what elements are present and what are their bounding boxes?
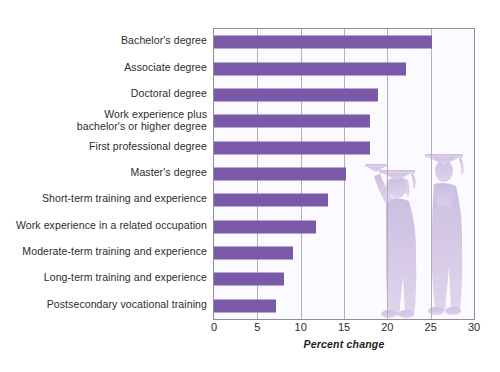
- category-label: Doctoral degree: [2, 88, 207, 100]
- category-label: Long-term training and experience: [2, 273, 207, 285]
- plot-area: [213, 28, 475, 320]
- bar-chart: Bachelor's degreeAssociate degreeDoctora…: [0, 0, 500, 372]
- category-label: Short-term training and experience: [2, 194, 207, 206]
- category-label: Postsecondary vocational training: [2, 299, 207, 311]
- category-label: Bachelor's degree: [2, 35, 207, 47]
- x-tick-15: 15: [338, 321, 350, 333]
- bar: [214, 247, 293, 260]
- x-tick-0: 0: [211, 321, 217, 333]
- category-label-column: Bachelor's degreeAssociate degreeDoctora…: [0, 28, 207, 320]
- bar: [214, 194, 328, 207]
- category-label: Work experience plus bachelor's or highe…: [2, 109, 207, 132]
- category-label: Master's degree: [2, 167, 207, 179]
- bar: [214, 141, 370, 154]
- category-label: Associate degree: [2, 62, 207, 74]
- category-label: Moderate-term training and experience: [2, 246, 207, 258]
- bar: [214, 36, 432, 49]
- bar: [214, 168, 346, 181]
- x-tick-20: 20: [381, 321, 393, 333]
- x-tick-10: 10: [295, 321, 307, 333]
- bar: [214, 62, 406, 75]
- bar: [214, 299, 276, 312]
- bar: [214, 220, 316, 233]
- x-tick-30: 30: [468, 321, 480, 333]
- category-label: First professional degree: [2, 141, 207, 153]
- two-graduates-illustration: [356, 144, 478, 321]
- x-tick-5: 5: [254, 321, 260, 333]
- x-axis-tick-labels: 051015202530: [213, 321, 475, 337]
- x-axis-title: Percent change: [213, 338, 475, 350]
- bar: [214, 115, 370, 128]
- bar: [214, 273, 284, 286]
- gridline-25: [431, 29, 432, 319]
- bar: [214, 88, 378, 101]
- x-tick-25: 25: [425, 321, 437, 333]
- category-label: Work experience in a related occupation: [2, 220, 207, 232]
